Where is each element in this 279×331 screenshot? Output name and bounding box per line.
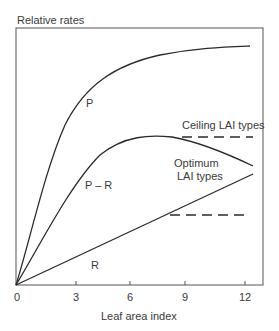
ceiling-lai-label: Ceiling LAI types — [182, 120, 265, 131]
optimum-lai-label-line2: LAI types — [177, 171, 223, 182]
x-tick-label: 3 — [73, 292, 79, 303]
curve-r — [16, 174, 253, 285]
optimum-lai-label-line1: Optimum — [174, 158, 219, 169]
x-tick-label: 0 — [14, 292, 20, 303]
y-axis-label: Relative rates — [17, 15, 84, 26]
series-label-p: P — [86, 98, 93, 109]
x-ticks — [76, 281, 245, 285]
series-label-r: R — [91, 260, 99, 271]
x-tick-label: 6 — [127, 292, 133, 303]
x-axis-label: Leaf area index — [101, 311, 177, 322]
series-label-p-minus-r: P – R — [85, 180, 112, 191]
chart-plot — [0, 0, 279, 331]
x-tick-label: 9 — [182, 292, 188, 303]
x-tick-label: 12 — [239, 292, 251, 303]
